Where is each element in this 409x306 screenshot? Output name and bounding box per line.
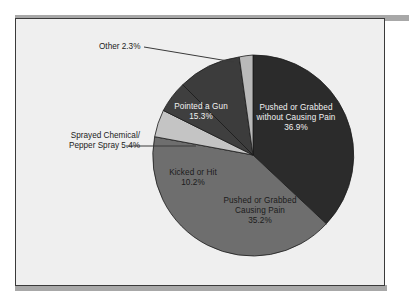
pie-label-line2: without Causing Pain: [257, 113, 336, 122]
pie-label-line1: Kicked or Hit: [169, 168, 217, 177]
pie-label-value: 15.3%: [160, 112, 242, 122]
pie-label-line1: Pushed or Grabbed: [259, 103, 332, 112]
pie-label-line2: Causing Pain: [235, 206, 285, 215]
pie-callout-line2: Pepper Spray 5.4%: [69, 141, 140, 150]
pie-chart: Pushed or Grabbed without Causing Pain 3…: [0, 0, 409, 306]
pie-label-pushed-or-grabbed-without-causing-pain: Pushed or Grabbed without Causing Pain 3…: [243, 103, 349, 133]
pie-label-pushed-or-grabbed-causing-pain: Pushed or Grabbed Causing Pain 35.2%: [208, 196, 312, 226]
pie-label-value: 35.2%: [208, 216, 312, 226]
pie-label-kicked-or-hit: Kicked or Hit 10.2%: [155, 168, 231, 188]
pie-label-line1: Pushed or Grabbed: [223, 196, 296, 205]
pie-label-line1: Pointed a Gun: [174, 102, 228, 111]
pie-callout-line1: Sprayed Chemical/: [71, 131, 140, 140]
pie-label-value: 36.9%: [243, 123, 349, 133]
pie-svg: [0, 0, 409, 306]
pie-label-pointed-a-gun: Pointed a Gun 15.3%: [160, 102, 242, 122]
leader-line-other: [144, 47, 234, 62]
pie-label-value: 10.2%: [155, 178, 231, 188]
pie-callout-label-other: Other 2.3%: [99, 42, 140, 52]
pie-callout-label-sprayed-chemical-pepper-spray: Sprayed Chemical/ Pepper Spray 5.4%: [22, 131, 140, 152]
pie-callout-text: Other 2.3%: [99, 42, 140, 51]
figure-root: Pushed or Grabbed without Causing Pain 3…: [0, 0, 409, 306]
